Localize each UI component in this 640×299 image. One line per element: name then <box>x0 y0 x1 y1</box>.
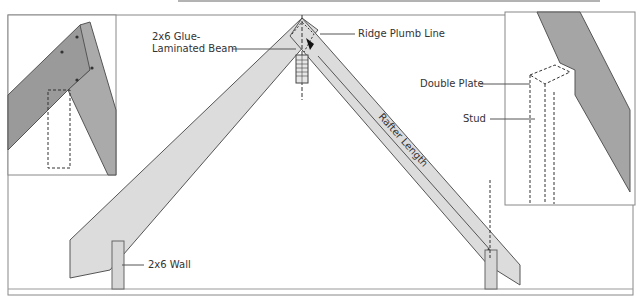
ridge-plumb-label: Ridge Plumb Line <box>358 28 445 39</box>
stud-label: Stud <box>463 113 486 124</box>
glulam-label-2: Laminated Beam <box>152 43 237 54</box>
glulam-label-1: 2x6 Glue- <box>152 31 201 42</box>
wall-label: 2x6 Wall <box>148 259 191 270</box>
double-plate-label: Double Plate <box>420 78 484 89</box>
right-wall <box>485 250 497 289</box>
rafter-diagram: Ridge Plumb Line 2x6 Glue- Laminated Bea… <box>0 0 640 299</box>
